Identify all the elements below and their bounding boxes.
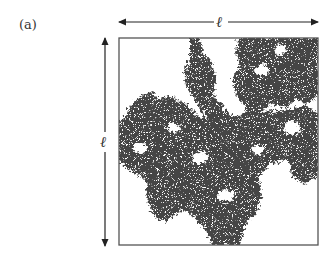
- percolation-figure: ℓ ℓ: [0, 0, 335, 262]
- percolation-cluster: [119, 38, 318, 245]
- horizontal-dimension-label: ℓ: [216, 13, 222, 31]
- vertical-dimension-label: ℓ: [100, 133, 106, 151]
